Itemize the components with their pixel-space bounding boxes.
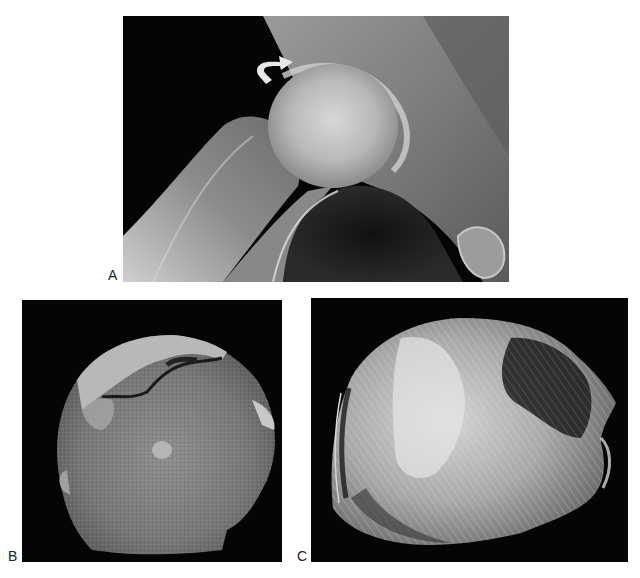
panel-label-a: A bbox=[108, 268, 117, 282]
panel-c-specimen-radiograph bbox=[311, 298, 628, 562]
panel-label-c: C bbox=[297, 549, 307, 563]
panel-b-gross-specimen bbox=[22, 300, 282, 562]
specimen-xray-image bbox=[311, 298, 628, 562]
hip-xray-image bbox=[123, 16, 509, 282]
femoral-head-cut-section-image bbox=[22, 300, 282, 562]
panel-label-b: B bbox=[8, 549, 17, 563]
panel-a-hip-radiograph bbox=[123, 16, 509, 282]
curved-arrow-icon bbox=[256, 52, 298, 88]
